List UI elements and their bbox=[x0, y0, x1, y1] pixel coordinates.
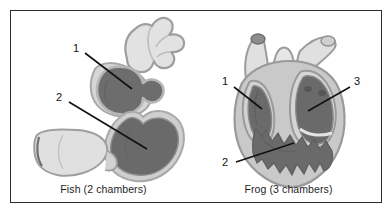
frog-heart-diagram bbox=[196, 11, 382, 204]
figure-page: 1 2 Fish (2 chambers) bbox=[0, 0, 392, 214]
frog-vessel-opening-left bbox=[251, 34, 265, 44]
fish-ventricle-chamber bbox=[105, 111, 184, 181]
caption-frog: Frog (3 chambers) bbox=[196, 183, 381, 195]
panel-fish: 1 2 Fish (2 chambers) bbox=[11, 11, 196, 202]
fish-sinus-venosus bbox=[34, 130, 117, 176]
fish-ventral-aorta bbox=[125, 18, 184, 72]
callout-frog-3: 3 bbox=[354, 75, 360, 87]
callout-frog-2: 2 bbox=[222, 156, 228, 168]
callout-fish-2: 2 bbox=[56, 91, 62, 103]
fish-heart-diagram bbox=[11, 11, 197, 204]
panel-frog: 1 2 3 Frog (3 chambers) bbox=[196, 11, 381, 202]
caption-fish: Fish (2 chambers) bbox=[11, 183, 196, 195]
callout-fish-1: 1 bbox=[73, 42, 79, 54]
callout-frog-1: 1 bbox=[222, 75, 228, 87]
fish-atrium-chamber bbox=[97, 67, 164, 115]
figure-frame: 1 2 Fish (2 chambers) bbox=[10, 10, 382, 203]
frog-vessel-opening-right bbox=[321, 36, 335, 46]
